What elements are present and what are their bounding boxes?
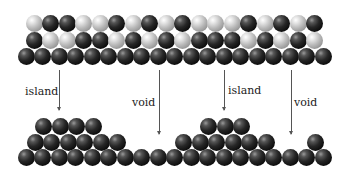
island-arrow-2 xyxy=(224,70,225,110)
dark-atom xyxy=(282,48,299,65)
light-atom xyxy=(92,15,109,32)
dark-atom xyxy=(158,32,175,49)
substrate-atom xyxy=(67,149,84,166)
light-atom xyxy=(158,15,175,32)
dark-atom xyxy=(241,134,258,151)
dark-atom xyxy=(216,48,233,65)
dark-atom xyxy=(257,32,274,49)
island-label-2: island xyxy=(228,85,261,97)
void-label-1: void xyxy=(132,97,155,109)
dark-atom xyxy=(249,48,266,65)
dark-atom xyxy=(273,15,290,32)
dark-atom xyxy=(27,134,44,151)
dark-atom xyxy=(150,48,167,65)
substrate-atom xyxy=(18,149,35,166)
dark-atom xyxy=(166,48,183,65)
dark-atom xyxy=(233,118,250,135)
dark-atom xyxy=(18,48,35,65)
light-atom xyxy=(306,32,323,49)
dark-atom xyxy=(175,134,192,151)
substrate-atom xyxy=(34,149,51,166)
dark-atom xyxy=(75,32,92,49)
substrate-atom xyxy=(232,149,249,166)
substrate-atom xyxy=(183,149,200,166)
dark-atom xyxy=(43,134,60,151)
dark-atom xyxy=(315,48,332,65)
dark-atom xyxy=(100,48,117,65)
dark-atom xyxy=(232,48,249,65)
dark-atom xyxy=(225,134,242,151)
dark-atom xyxy=(298,48,315,65)
substrate-atom xyxy=(100,149,117,166)
light-atom xyxy=(240,32,257,49)
light-atom xyxy=(207,15,224,32)
dark-atom xyxy=(108,15,125,32)
dark-atom xyxy=(290,32,307,49)
void-arrow-2 xyxy=(291,70,292,134)
island-label-1: island xyxy=(25,86,58,98)
dark-atom xyxy=(125,32,142,49)
substrate-atom xyxy=(249,149,266,166)
dark-atom xyxy=(109,134,126,151)
dark-atom xyxy=(84,48,101,65)
dark-atom xyxy=(117,48,134,65)
light-atom xyxy=(108,32,125,49)
dark-atom xyxy=(85,118,102,135)
dark-atom xyxy=(60,134,77,151)
dark-atom xyxy=(93,134,110,151)
void-label-2: void xyxy=(294,97,317,109)
substrate-atom xyxy=(166,149,183,166)
light-atom xyxy=(174,32,191,49)
light-atom xyxy=(26,15,43,32)
dark-atom xyxy=(68,118,85,135)
light-atom xyxy=(191,15,208,32)
substrate-atom xyxy=(150,149,167,166)
dark-atom xyxy=(200,118,217,135)
substrate-atom xyxy=(133,149,150,166)
dark-atom xyxy=(59,15,76,32)
substrate-atom xyxy=(315,149,332,166)
light-atom xyxy=(273,32,290,49)
diagram-canvas: island void island void xyxy=(0,0,346,173)
light-atom xyxy=(224,15,241,32)
light-atom xyxy=(141,32,158,49)
dark-atom xyxy=(307,134,324,151)
dark-atom xyxy=(217,118,234,135)
light-atom xyxy=(290,15,307,32)
dark-atom xyxy=(265,48,282,65)
dark-atom xyxy=(92,32,109,49)
dark-atom xyxy=(208,134,225,151)
dark-atom xyxy=(183,48,200,65)
dark-atom xyxy=(35,118,52,135)
dark-atom xyxy=(199,48,216,65)
dark-atom xyxy=(51,48,68,65)
dark-atom xyxy=(141,15,158,32)
substrate-atom xyxy=(282,149,299,166)
dark-atom xyxy=(34,48,51,65)
dark-atom xyxy=(306,15,323,32)
dark-atom xyxy=(76,134,93,151)
substrate-atom xyxy=(265,149,282,166)
light-atom xyxy=(59,32,76,49)
dark-atom xyxy=(207,32,224,49)
dark-atom xyxy=(133,48,150,65)
substrate-atom xyxy=(51,149,68,166)
dark-atom xyxy=(42,15,59,32)
dark-atom xyxy=(258,134,275,151)
dark-atom xyxy=(224,32,241,49)
light-atom xyxy=(257,15,274,32)
island-arrow-1 xyxy=(59,70,60,110)
light-atom xyxy=(42,32,59,49)
dark-atom xyxy=(26,32,43,49)
dark-atom xyxy=(240,15,257,32)
dark-atom xyxy=(52,118,69,135)
substrate-atom xyxy=(117,149,134,166)
void-arrow-1 xyxy=(159,70,160,134)
substrate-atom xyxy=(84,149,101,166)
substrate-atom xyxy=(199,149,216,166)
dark-atom xyxy=(192,134,209,151)
light-atom xyxy=(75,15,92,32)
dark-atom xyxy=(67,48,84,65)
dark-atom xyxy=(191,32,208,49)
light-atom xyxy=(125,15,142,32)
